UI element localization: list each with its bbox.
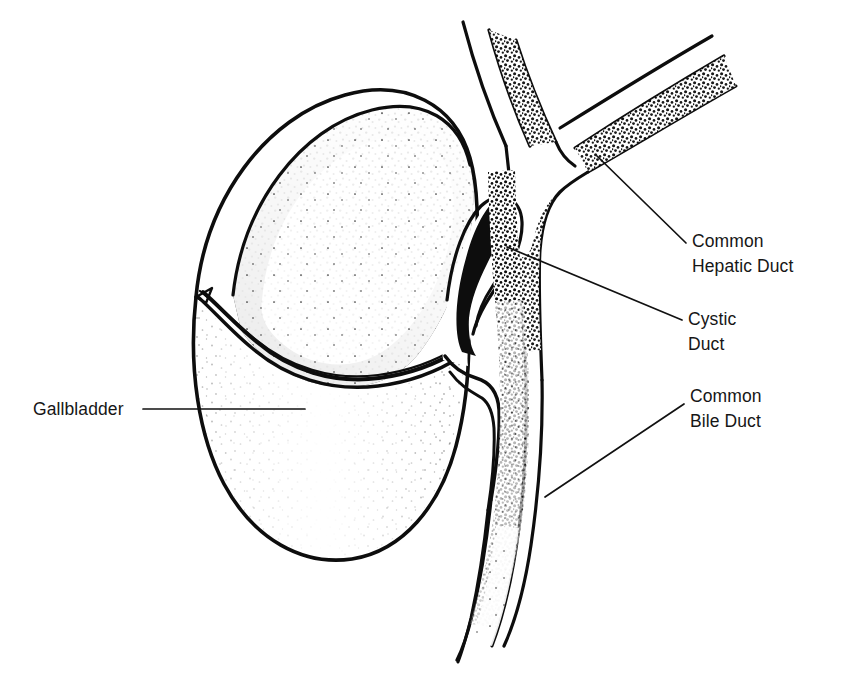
label-common-hepatic-duct-line2: Hepatic Duct [692, 256, 793, 276]
label-cystic-duct-line1: Cystic [688, 309, 736, 329]
label-cystic-duct-line2: Duct [688, 334, 724, 354]
label-gallbladder: Gallbladder [33, 399, 124, 419]
label-common-bile-duct-line2: Bile Duct [690, 411, 761, 431]
label-common-bile-duct-line1: Common [690, 386, 762, 406]
label-common-hepatic-duct-line1: Common [692, 231, 764, 251]
gallbladder-diagram-svg: Gallbladder Common Hepatic Duct Cystic D… [0, 0, 841, 683]
anatomical-figure: Gallbladder Common Hepatic Duct Cystic D… [0, 0, 841, 683]
